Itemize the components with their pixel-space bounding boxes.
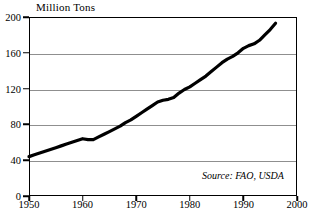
- x-tick-mark-1980: [189, 196, 191, 201]
- source-annotation: Source: FAO, USDA: [202, 170, 284, 181]
- chart-container: Million Tons 04080120160200 195019601970…: [0, 0, 312, 220]
- x-axis: 195019601970198019902000: [0, 0, 312, 220]
- x-tick-mark-1960: [82, 196, 84, 201]
- x-tick-mark-2000: [296, 196, 298, 201]
- x-tick-mark-1990: [243, 196, 245, 201]
- x-tick-mark-1950: [28, 196, 30, 201]
- x-tick-mark-1970: [135, 196, 137, 201]
